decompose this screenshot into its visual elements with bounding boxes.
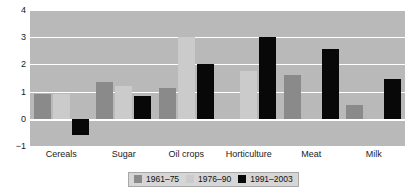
gridline-3 xyxy=(30,37,405,38)
y-tick-label: 1 xyxy=(21,87,26,96)
bar-chart: −101234 CerealsSugarOil cropsHorticultur… xyxy=(0,0,409,195)
x-tick-label: Horticulture xyxy=(226,150,272,159)
x-tick-label: Meat xyxy=(301,150,321,159)
legend-entry[interactable]: 1976–90 xyxy=(186,175,231,184)
bar xyxy=(259,37,276,119)
x-tick-label: Milk xyxy=(366,150,382,159)
x-tick-label: Sugar xyxy=(112,150,136,159)
y-axis: −101234 xyxy=(0,10,30,146)
x-axis-labels: CerealsSugarOil cropsHorticultureMeatMil… xyxy=(30,150,405,164)
bar xyxy=(96,82,113,119)
gridline-2 xyxy=(30,64,405,65)
bar xyxy=(284,75,301,119)
legend-label: 1991–2003 xyxy=(250,175,293,184)
legend-swatch-icon xyxy=(238,175,246,183)
y-tick-label: 2 xyxy=(21,60,26,69)
bar xyxy=(159,88,176,119)
bar xyxy=(384,79,401,118)
legend-entry[interactable]: 1991–2003 xyxy=(238,175,293,184)
legend-swatch-icon xyxy=(134,175,142,183)
y-tick-label: −1 xyxy=(16,142,26,151)
bar xyxy=(115,86,132,119)
bar xyxy=(34,94,51,118)
x-tick-label: Oil crops xyxy=(168,150,204,159)
bar xyxy=(72,119,89,135)
y-tick-label: 0 xyxy=(21,114,26,123)
legend-label: 1961–75 xyxy=(146,175,179,184)
gridline--1 xyxy=(30,146,405,147)
chart-legend: 1961–751976–901991–2003 xyxy=(128,172,299,187)
gridline-4 xyxy=(30,10,405,11)
plot-area xyxy=(30,10,405,146)
bar xyxy=(134,96,151,119)
bar xyxy=(346,105,363,119)
y-tick-label: 3 xyxy=(21,33,26,42)
bar xyxy=(322,49,339,118)
x-tick-label: Cereals xyxy=(46,150,77,159)
legend-entry[interactable]: 1961–75 xyxy=(134,175,179,184)
legend-label: 1976–90 xyxy=(198,175,231,184)
legend-swatch-icon xyxy=(186,175,194,183)
bar xyxy=(178,37,195,119)
bar xyxy=(240,71,257,119)
bar xyxy=(197,64,214,118)
y-tick-label: 4 xyxy=(21,6,26,15)
bar xyxy=(53,94,70,118)
gridline-1 xyxy=(30,92,405,93)
